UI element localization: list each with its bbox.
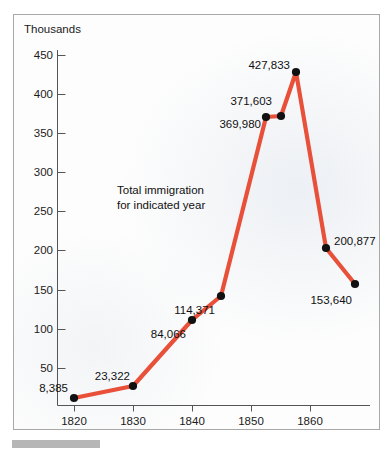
y-tick-label-300: 300 <box>19 166 53 178</box>
chart-annotation-line-1: Total immigration <box>117 183 205 198</box>
data-label-1852: 371,603 <box>230 95 272 107</box>
x-tick-label-1860: 1860 <box>288 415 332 427</box>
y-axis-title: Thousands <box>24 23 81 35</box>
data-label-1858: 200,877 <box>334 235 376 247</box>
y-tick-label-250: 250 <box>19 205 53 217</box>
caption-bar <box>12 440 100 448</box>
data-label-1855: 427,833 <box>248 59 290 71</box>
chart-annotation-line-2: for indicated year <box>117 198 205 213</box>
data-label-1840: 84,066 <box>151 328 186 340</box>
y-tick-label-100: 100 <box>19 323 53 335</box>
chart-annotation: Total immigration for indicated year <box>117 183 205 213</box>
y-tick-label-50: 50 <box>19 362 53 374</box>
x-tick-label-1820: 1820 <box>52 415 96 427</box>
x-tick-label-1830: 1830 <box>111 415 155 427</box>
data-label-1820: 8,385 <box>39 382 68 394</box>
y-tick-label-150: 150 <box>19 284 53 296</box>
x-tick-label-1850: 1850 <box>229 415 273 427</box>
x-tick-label-1840: 1840 <box>170 415 214 427</box>
y-tick-label-450: 450 <box>19 49 53 61</box>
chart-frame <box>13 14 380 430</box>
y-tick-label-400: 400 <box>19 88 53 100</box>
data-label-1860: 153,640 <box>310 294 352 306</box>
immigration-line-chart-figure: Thousands 450 400 350 300 250 200 150 10… <box>0 0 389 453</box>
data-label-1830: 23,322 <box>95 370 130 382</box>
data-label-1850: 369,980 <box>219 118 261 130</box>
y-tick-label-350: 350 <box>19 127 53 139</box>
data-label-1845: 114,371 <box>174 304 215 316</box>
y-tick-label-200: 200 <box>19 244 53 256</box>
